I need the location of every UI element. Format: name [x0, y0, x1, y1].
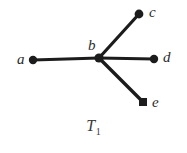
edges-layer: [33, 14, 154, 102]
graph-node-e: [139, 98, 147, 106]
graph-edge-bc: [99, 14, 139, 58]
vertex-label-d: d: [163, 50, 171, 65]
vertex-label-c: c: [149, 5, 156, 20]
graph-node-a: [29, 56, 37, 64]
caption-subscript: 1: [96, 126, 101, 137]
tree-graph-figure: a b c d e T1: [0, 0, 187, 153]
vertex-label-b: b: [88, 38, 96, 53]
caption-base: T: [86, 117, 95, 134]
graph-edge-ab: [33, 58, 99, 60]
graph-edge-be: [99, 58, 143, 102]
figure-caption: T1: [0, 118, 187, 137]
vertex-label-a: a: [17, 52, 25, 67]
vertex-label-e: e: [152, 95, 159, 110]
graph-node-d: [150, 55, 158, 63]
graph-node-b: [94, 53, 103, 62]
graph-edge-bd: [99, 58, 154, 59]
graph-node-c: [135, 10, 144, 19]
